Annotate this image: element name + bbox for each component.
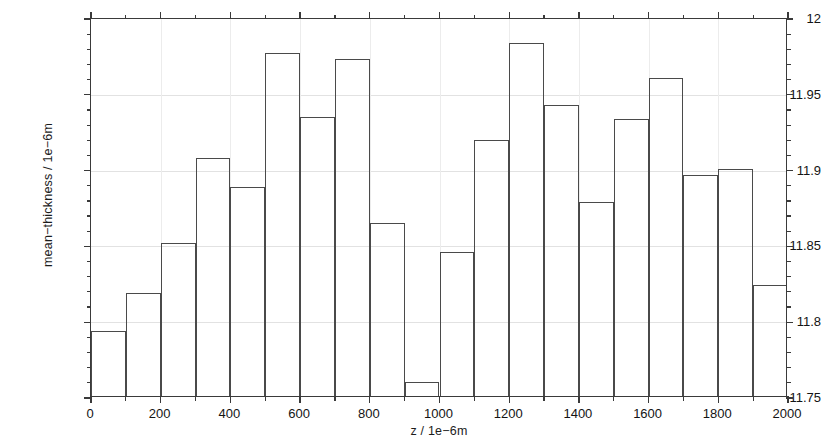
- histogram-bar: [579, 202, 614, 396]
- y-axis-minor-tick-right: [786, 185, 791, 186]
- y-axis-minor-tick-right: [786, 79, 791, 80]
- x-tick-label: 800: [358, 406, 380, 421]
- y-axis-minor-tick-right: [786, 125, 791, 126]
- histogram-bar: [509, 43, 544, 396]
- x-axis-tick: [509, 396, 510, 403]
- histogram-bar: [300, 117, 335, 396]
- x-axis-minor-tick: [543, 396, 544, 401]
- plot-area: [90, 18, 787, 397]
- x-tick-label: 600: [288, 406, 310, 421]
- x-axis-tick: [578, 396, 579, 403]
- x-axis-tick-top: [787, 12, 788, 19]
- histogram-bar: [335, 59, 370, 396]
- x-axis-minor-tick: [683, 396, 684, 401]
- histogram-figure: mean−thickness / 1e−6m z / 1e−6m 11.7511…: [0, 0, 821, 444]
- x-axis-tick: [299, 396, 300, 403]
- y-axis-minor-tick-right: [786, 276, 791, 277]
- y-axis-minor-tick-right: [786, 34, 791, 35]
- x-axis-tick-top: [230, 12, 231, 19]
- x-axis-tick-top: [90, 12, 91, 19]
- histogram-bar: [405, 382, 440, 396]
- x-axis-tick-top: [160, 12, 161, 19]
- histogram-bar: [718, 169, 753, 396]
- y-axis-label: mean−thickness / 1e−6m: [41, 55, 55, 335]
- y-axis-minor-tick-right: [786, 367, 791, 368]
- y-axis-tick-right: [786, 94, 793, 95]
- x-axis-tick-top: [718, 12, 719, 19]
- histogram-bar: [230, 187, 265, 396]
- histogram-bar: [614, 119, 649, 396]
- histogram-bar: [370, 223, 405, 396]
- x-tick-label: 0: [86, 406, 93, 421]
- x-axis-tick: [90, 396, 91, 403]
- x-axis-tick-top: [509, 12, 510, 19]
- x-axis-minor-tick: [404, 396, 405, 401]
- y-axis-tick: [84, 322, 91, 323]
- y-axis-minor-tick-right: [786, 64, 791, 65]
- histogram-bar: [649, 78, 684, 396]
- x-axis-minor-tick: [265, 396, 266, 401]
- x-axis-tick: [369, 396, 370, 403]
- y-axis-minor-tick-right: [786, 382, 791, 383]
- y-axis-tick-right: [786, 170, 793, 171]
- histogram-bars: [91, 19, 786, 396]
- y-axis-minor-tick-right: [786, 49, 791, 50]
- y-axis-tick-right: [786, 246, 793, 247]
- x-tick-label: 1000: [424, 406, 453, 421]
- x-axis-tick: [160, 396, 161, 403]
- y-axis-tick: [84, 94, 91, 95]
- x-axis-tick-top: [648, 12, 649, 19]
- x-tick-label: 1600: [633, 406, 662, 421]
- y-axis-minor-tick-right: [786, 200, 791, 201]
- histogram-bar: [440, 252, 475, 396]
- y-axis-tick: [84, 246, 91, 247]
- histogram-bar: [544, 105, 579, 396]
- histogram-bar: [474, 140, 509, 396]
- y-axis-tick-right: [786, 322, 793, 323]
- x-tick-label: 2000: [773, 406, 802, 421]
- y-axis-tick: [84, 170, 91, 171]
- x-tick-label: 200: [149, 406, 171, 421]
- y-axis-minor-tick-right: [786, 109, 791, 110]
- histogram-bar: [753, 285, 786, 396]
- y-axis-minor-tick-right: [786, 261, 791, 262]
- y-axis-minor-tick-right: [786, 155, 791, 156]
- x-axis-tick-top: [439, 12, 440, 19]
- x-tick-label: 1800: [703, 406, 732, 421]
- histogram-bar: [161, 243, 196, 396]
- y-axis-minor-tick-right: [786, 215, 791, 216]
- x-axis-minor-tick: [334, 396, 335, 401]
- y-axis-minor-tick-right: [786, 337, 791, 338]
- x-tick-label: 400: [219, 406, 241, 421]
- y-axis-minor-tick-right: [786, 352, 791, 353]
- x-axis-minor-tick: [613, 396, 614, 401]
- x-tick-label: 1400: [563, 406, 592, 421]
- histogram-bar: [265, 53, 300, 396]
- x-tick-label: 1200: [494, 406, 523, 421]
- histogram-bar: [196, 158, 231, 396]
- x-axis-minor-tick: [753, 396, 754, 401]
- x-axis-minor-tick: [195, 396, 196, 401]
- x-axis-tick-top: [578, 12, 579, 19]
- x-axis-tick: [230, 396, 231, 403]
- y-axis-minor-tick-right: [786, 291, 791, 292]
- x-axis-label: z / 1e−6m: [90, 424, 788, 438]
- x-axis-tick: [718, 396, 719, 403]
- histogram-bar: [683, 175, 718, 396]
- x-axis-tick: [787, 396, 788, 403]
- y-axis-minor-tick-right: [786, 140, 791, 141]
- x-axis-tick: [648, 396, 649, 403]
- x-axis-minor-tick: [125, 396, 126, 401]
- x-axis-tick-top: [299, 12, 300, 19]
- y-axis-minor-tick-right: [786, 231, 791, 232]
- y-axis-minor-tick-right: [786, 306, 791, 307]
- x-axis-tick: [439, 396, 440, 403]
- x-axis-minor-tick: [474, 396, 475, 401]
- histogram-bar: [91, 331, 126, 396]
- histogram-bar: [126, 293, 161, 396]
- x-axis-tick-top: [369, 12, 370, 19]
